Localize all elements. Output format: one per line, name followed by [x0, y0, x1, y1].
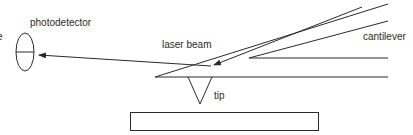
photodetector-label: photodetector [30, 17, 92, 28]
laser-beam-label: laser beam [162, 39, 211, 50]
tip-label: tip [214, 90, 225, 101]
photodetector-icon [16, 33, 34, 71]
tip-shape [188, 77, 212, 104]
sample-substrate [131, 113, 319, 131]
reflected-beam [39, 55, 211, 66]
afm-diagram: e photodetector laser beam cantilever ti… [0, 0, 413, 135]
incident-beam [214, 7, 362, 65]
clipped-label: e [0, 31, 3, 42]
cantilever-label: cantilever [363, 31, 406, 42]
